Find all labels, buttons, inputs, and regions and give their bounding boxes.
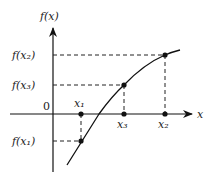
- x3-label: x₃: [117, 118, 128, 131]
- fx2-label: f(x₂): [11, 49, 35, 62]
- origin-label: 0: [43, 100, 50, 113]
- point-fx1: [78, 138, 83, 143]
- y-axis-label: f(x): [39, 10, 59, 23]
- point-x2: [162, 111, 167, 116]
- fx3-label: f(x₃): [11, 79, 35, 92]
- x2-label: x₂: [158, 118, 169, 131]
- point-fx3: [121, 82, 126, 87]
- point-x1: [78, 111, 83, 116]
- fx1-label: f(x₁): [11, 135, 35, 148]
- function-diagram: f(x) x 0 f(x₂) f(x₃) f(x₁) x₁ x₃ x₂: [0, 0, 216, 180]
- x1-label: x₁: [74, 97, 85, 110]
- x-axis-label: x: [197, 108, 204, 121]
- point-fx2: [162, 52, 167, 57]
- point-x3: [121, 111, 126, 116]
